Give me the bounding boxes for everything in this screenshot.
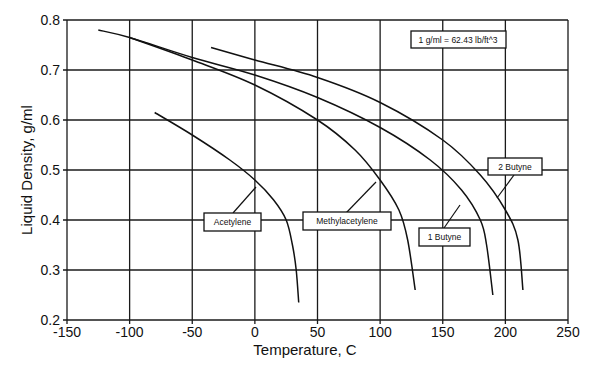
- y-tick-label: 0.3: [41, 262, 61, 278]
- y-tick-label: 0.4: [41, 212, 61, 228]
- y-axis-ticks: 0.20.30.40.50.60.70.8: [41, 12, 61, 328]
- y-tick-label: 0.5: [41, 162, 61, 178]
- label-2-butyne-text: 2 Butyne: [498, 162, 532, 172]
- y-axis-title: Liquid Density, g/ml: [18, 105, 35, 235]
- x-tick-label: 150: [431, 324, 455, 340]
- conversion-text: 1 g/ml = 62.43 lb/ft^3: [419, 35, 498, 45]
- label-methylacetylene: Methylacetylene: [303, 182, 391, 230]
- y-tick-label: 0.8: [41, 12, 61, 28]
- curve-2-butyne: [211, 48, 523, 291]
- curve-methylacetylene: [130, 38, 416, 291]
- label-2-butyne: 2 Butyne: [488, 158, 542, 198]
- x-tick-label: -100: [116, 324, 144, 340]
- x-axis-ticks: -150-100-50050100150200250: [53, 324, 580, 340]
- y-tick-label: 0.7: [41, 62, 61, 78]
- label-1-butyne-text: 1 Butyne: [428, 232, 462, 242]
- label-1-butyne: 1 Butyne: [419, 205, 470, 246]
- x-tick-label: 200: [494, 324, 518, 340]
- label-methylacetylene-text: Methylacetylene: [316, 216, 378, 226]
- label-acetylene: Acetylene: [204, 187, 261, 231]
- curve-acetylene: [155, 113, 299, 303]
- x-tick-label: 50: [310, 324, 326, 340]
- x-tick-label: 250: [556, 324, 580, 340]
- y-tick-label: 0.6: [41, 112, 61, 128]
- curves: [98, 30, 523, 303]
- x-tick-label: 0: [251, 324, 259, 340]
- x-axis-title: Temperature, C: [253, 341, 357, 358]
- x-tick-label: -50: [182, 324, 202, 340]
- label-acetylene-text: Acetylene: [214, 217, 252, 227]
- density-chart: -150-100-50050100150200250 0.20.30.40.50…: [0, 0, 593, 367]
- x-tick-label: 100: [368, 324, 392, 340]
- y-tick-label: 0.2: [41, 312, 61, 328]
- conversion-annotation: 1 g/ml = 62.43 lb/ft^3: [411, 31, 506, 48]
